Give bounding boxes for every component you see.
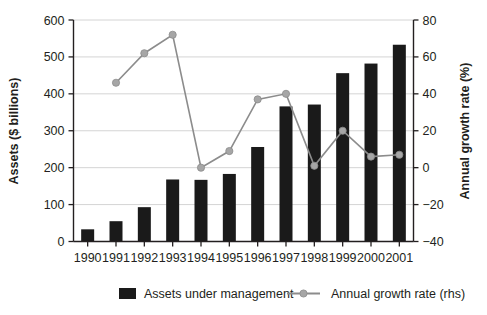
bar bbox=[280, 106, 293, 241]
growth-rate-marker bbox=[367, 153, 374, 160]
left-axis-ticks: 0100200300400500600 bbox=[44, 14, 74, 250]
growth-rate-marker bbox=[254, 96, 261, 103]
x-axis-tick-label: 2001 bbox=[385, 251, 413, 265]
bar bbox=[195, 180, 208, 242]
x-axis-tick-label: 1996 bbox=[244, 251, 272, 265]
left-axis-tick-label: 100 bbox=[44, 198, 65, 212]
x-axis-tick-label: 1997 bbox=[272, 251, 300, 265]
bar bbox=[166, 179, 179, 241]
legend-label-assets: Assets under management bbox=[144, 287, 294, 301]
right-axis-tick-label: −20 bbox=[423, 198, 444, 212]
left-axis-tick-label: 300 bbox=[44, 124, 65, 138]
bar bbox=[81, 229, 94, 241]
growth-rate-marker bbox=[197, 164, 204, 171]
assets-and-growth-chart: 0100200300400500600 −40−20020406080 1990… bbox=[0, 0, 487, 315]
bar bbox=[336, 73, 349, 241]
bar bbox=[110, 221, 123, 241]
right-axis-ticks: −40−20020406080 bbox=[414, 14, 444, 250]
right-axis-tick-label: 80 bbox=[423, 14, 437, 28]
growth-rate-marker bbox=[169, 31, 176, 38]
chart-container: 0100200300400500600 −40−20020406080 1990… bbox=[0, 0, 487, 315]
growth-rate-marker bbox=[226, 147, 233, 154]
x-axis-tick-label: 1991 bbox=[102, 251, 130, 265]
right-axis-tick-label: 0 bbox=[423, 161, 430, 175]
left-axis-tick-label: 500 bbox=[44, 50, 65, 64]
growth-rate-marker bbox=[141, 50, 148, 57]
legend: Assets under management Annual growth ra… bbox=[119, 287, 465, 301]
growth-rate-marker bbox=[311, 162, 318, 169]
x-axis-tick-label: 1998 bbox=[300, 251, 328, 265]
growth-rate-marker bbox=[339, 127, 346, 134]
right-axis-tick-label: 40 bbox=[423, 87, 437, 101]
growth-rate-marker bbox=[112, 79, 119, 86]
left-axis-tick-label: 400 bbox=[44, 87, 65, 101]
x-axis-tick-label: 1993 bbox=[159, 251, 187, 265]
right-axis-title: Annual growth rate (%) bbox=[458, 63, 472, 200]
legend-label-growth: Annual growth rate (rhs) bbox=[331, 287, 465, 301]
bar bbox=[138, 207, 151, 241]
x-axis-tick-label: 1992 bbox=[130, 251, 158, 265]
left-axis-tick-label: 0 bbox=[58, 235, 65, 249]
legend-swatch-growth-dot bbox=[300, 290, 307, 297]
left-axis-title: Assets ($ billions) bbox=[7, 78, 21, 185]
x-axis-tick-label: 1994 bbox=[187, 251, 215, 265]
gridlines bbox=[74, 20, 414, 205]
bar bbox=[251, 147, 264, 242]
legend-swatch-assets bbox=[119, 288, 136, 299]
x-axis-tick-label: 1999 bbox=[329, 251, 357, 265]
bar bbox=[223, 174, 236, 242]
x-axis-ticks: 1990199119921993199419951996199719981999… bbox=[74, 242, 414, 265]
right-axis-tick-label: 60 bbox=[423, 50, 437, 64]
right-axis-tick-label: 20 bbox=[423, 124, 437, 138]
growth-rate-marker bbox=[396, 151, 403, 158]
x-axis-tick-label: 1990 bbox=[74, 251, 102, 265]
x-axis-tick-label: 2000 bbox=[357, 251, 385, 265]
x-axis-tick-label: 1995 bbox=[215, 251, 243, 265]
growth-rate-marker bbox=[282, 90, 289, 97]
bar bbox=[308, 105, 321, 242]
right-axis-tick-label: −40 bbox=[423, 235, 444, 249]
left-axis-tick-label: 600 bbox=[44, 14, 65, 28]
left-axis-tick-label: 200 bbox=[44, 161, 65, 175]
bar bbox=[393, 45, 406, 242]
